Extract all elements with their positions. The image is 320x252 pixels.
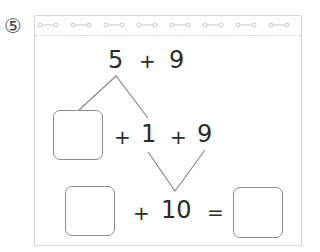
answer-box-split-part[interactable] (53, 110, 103, 160)
top-plus-sign: + (139, 49, 156, 73)
answer-box-sum[interactable] (233, 187, 283, 238)
row3-ten: 10 (161, 196, 192, 224)
row2-addend-1: 1 (141, 120, 156, 148)
row3-plus-sign: + (133, 201, 150, 225)
row3-equals-sign: = (207, 200, 224, 224)
answer-box-remaining[interactable] (65, 186, 115, 236)
top-addend-5: 5 (108, 46, 123, 74)
top-addend-9: 9 (169, 46, 184, 74)
row2-plus-sign-2: + (170, 125, 187, 149)
row2-addend-9: 9 (197, 120, 212, 148)
row2-plus-sign-1: + (114, 125, 131, 149)
